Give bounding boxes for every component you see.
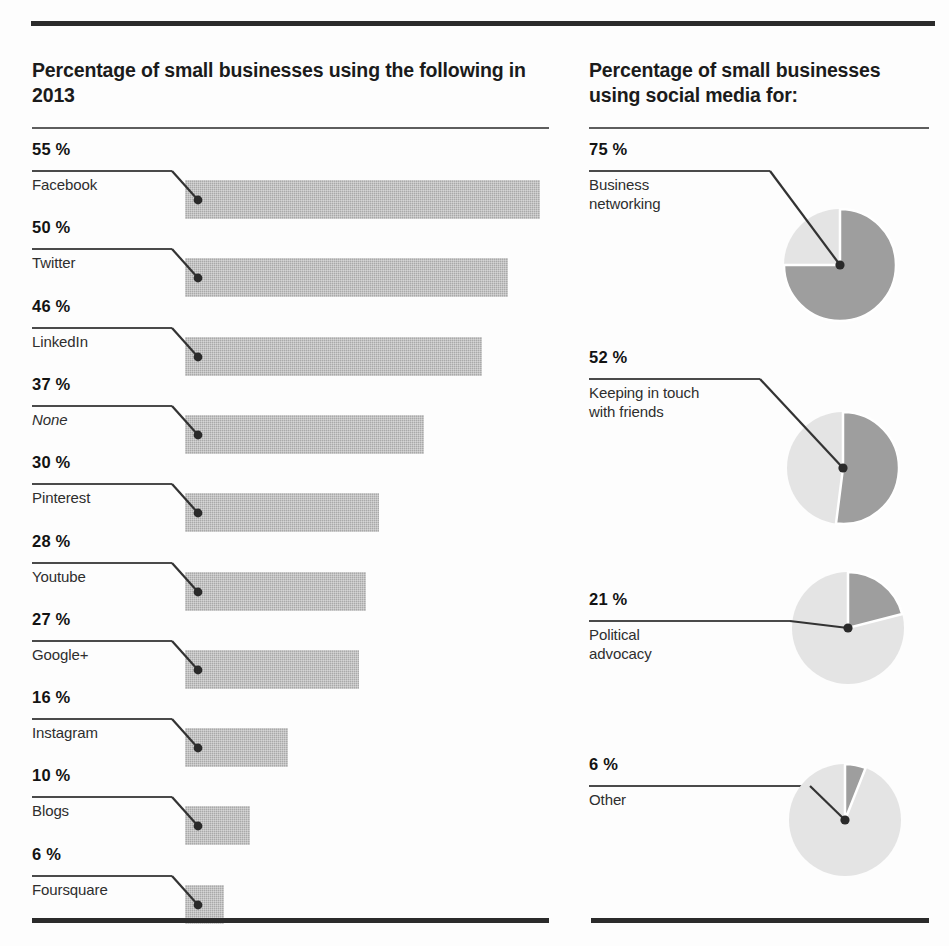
connector-rule	[32, 718, 172, 720]
connector-rule	[32, 640, 172, 642]
left-column-title: Percentage of small businesses using the…	[32, 58, 552, 108]
pie-category-label: Other	[589, 790, 626, 809]
bar-category-label: Youtube	[32, 567, 86, 586]
connector-rule	[32, 248, 172, 250]
bar-value-label: 10 %	[32, 766, 70, 785]
pie-category-label: Business networking	[589, 175, 661, 213]
bar-category-label: Blogs	[32, 801, 69, 820]
connector-rule	[589, 378, 760, 380]
connector-rule	[589, 170, 770, 172]
bar-category-label: LinkedIn	[32, 332, 88, 351]
pie-connector	[756, 375, 766, 385]
bar-value-label: 6 %	[32, 845, 61, 864]
connector-rule	[32, 796, 172, 798]
bar	[185, 493, 379, 532]
bar	[185, 806, 250, 845]
pie-category-label: Keeping in touch with friends	[589, 383, 699, 421]
bar-value-label: 30 %	[32, 453, 70, 472]
pie-connector	[766, 167, 776, 177]
pie-value-label: 21 %	[589, 590, 627, 609]
bar-value-label: 27 %	[32, 610, 70, 629]
bar-category-label: Foursquare	[32, 880, 108, 899]
bar	[185, 415, 424, 454]
right-header-rule	[589, 127, 929, 129]
bar-value-label: 16 %	[32, 688, 70, 707]
connector-rule	[32, 562, 172, 564]
bar	[185, 650, 359, 689]
connector-rule	[589, 785, 810, 787]
bar	[185, 728, 288, 767]
pie-value-label: 75 %	[589, 140, 627, 159]
pie-chart	[789, 569, 907, 687]
bar-category-label: Instagram	[32, 723, 98, 742]
bar	[185, 572, 366, 611]
connector-rule	[32, 483, 172, 485]
top-rule	[31, 21, 935, 26]
bar-category-label: None	[32, 410, 67, 429]
connector-rule	[32, 875, 172, 877]
right-column-title: Percentage of small businesses using soc…	[589, 58, 934, 108]
bar-category-label: Twitter	[32, 253, 75, 272]
pie-category-label: Political advocacy	[589, 625, 652, 663]
bar-value-label: 46 %	[32, 297, 70, 316]
bar-category-label: Pinterest	[32, 488, 90, 507]
bar-category-label: Google+	[32, 645, 88, 664]
bar-value-label: 28 %	[32, 532, 70, 551]
left-header-rule	[32, 127, 549, 129]
left-bottom-rule	[32, 918, 549, 923]
pie-value-label: 52 %	[589, 348, 627, 367]
pie-chart	[784, 409, 902, 527]
connector-rule	[32, 170, 172, 172]
right-bottom-rule	[591, 918, 929, 923]
bar-value-label: 50 %	[32, 218, 70, 237]
connector-rule	[32, 405, 172, 407]
pie-chart	[786, 761, 904, 879]
bar	[185, 180, 540, 219]
pie-value-label: 6 %	[589, 755, 618, 774]
bar-value-label: 37 %	[32, 375, 70, 394]
connector-rule	[589, 620, 790, 622]
connector-rule	[32, 327, 172, 329]
bar	[185, 337, 482, 376]
bar-value-label: 55 %	[32, 140, 70, 159]
bar	[185, 258, 508, 297]
bar-category-label: Facebook	[32, 175, 97, 194]
infographic-page: Percentage of small businesses using the…	[0, 0, 949, 946]
pie-chart	[781, 206, 899, 324]
